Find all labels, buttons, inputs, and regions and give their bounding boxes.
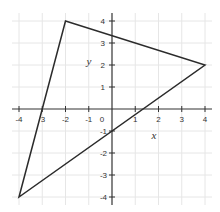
y-axis-label: y: [86, 55, 92, 67]
x-tick-label: 3: [41, 115, 46, 124]
y-tick-label: 1: [101, 83, 106, 92]
x-tick-label: 4: [203, 115, 208, 124]
coordinate-plane: -4 3 -2 -1 0 1 2 3 4 4 3 2 1 -1 -2 -3 -4…: [0, 0, 220, 212]
y-tick-label: -4: [100, 193, 108, 202]
x-tick-label: -4: [15, 115, 23, 124]
x-axis-label: x: [151, 129, 157, 141]
y-tick-label: 4: [101, 17, 106, 26]
y-tick-label: 3: [101, 39, 106, 48]
y-tick-label: 2: [101, 61, 106, 70]
x-tick-label: 2: [156, 115, 161, 124]
x-tick-label: 0: [100, 115, 105, 124]
x-tick-label: -1: [85, 115, 93, 124]
y-tick-label: -2: [100, 149, 108, 158]
x-tick-label: 3: [180, 115, 185, 124]
y-tick-label: -3: [100, 171, 108, 180]
x-tick-label: -2: [62, 115, 70, 124]
